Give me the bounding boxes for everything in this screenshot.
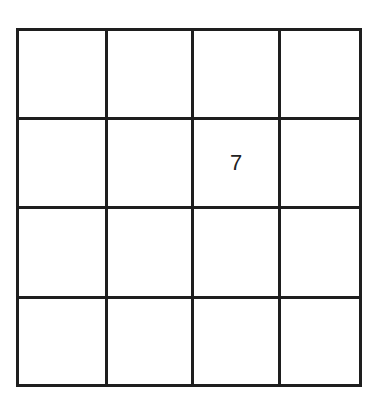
grid-cell-r3-c4 — [281, 209, 359, 296]
grid-cell-r3-c3 — [194, 209, 278, 296]
grid-cell-r4-c2 — [108, 299, 191, 384]
grid-cell-r2-c1 — [19, 120, 105, 206]
grid-line-horizontal-5 — [16, 384, 362, 387]
grid-cell-r2-c2 — [108, 120, 191, 206]
grid-cell-r3-c1 — [19, 209, 105, 296]
grid-cell-r1-c4 — [281, 31, 359, 117]
grid-cell-r1-c1 — [19, 31, 105, 117]
grid-cell-r3-c2 — [108, 209, 191, 296]
grid-cell-r4-c3 — [194, 299, 278, 384]
grid-cell-r4-c1 — [19, 299, 105, 384]
four-by-four-grid: 7 — [16, 28, 359, 386]
grid-cell-r1-c3 — [194, 31, 278, 117]
grid-cell-r4-c4 — [281, 299, 359, 384]
grid-cell-r1-c2 — [108, 31, 191, 117]
grid-cell-r2-c3: 7 — [194, 120, 278, 206]
grid-cell-r2-c4 — [281, 120, 359, 206]
